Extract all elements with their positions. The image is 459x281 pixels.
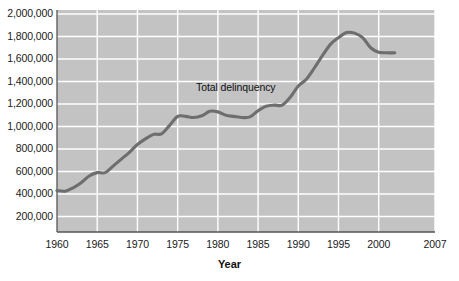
x-axis-tick-label: 2000 [355,238,403,250]
x-axis-title: Year [0,258,459,270]
chart-figure: 200,000400,000600,000800,0001,000,0001,2… [0,0,459,281]
x-axis-tick-label: 2007 [411,238,459,250]
series-annotation-label: Total delinquency [196,81,275,93]
y-axis-tick-label: 1,600,000 [0,52,53,64]
y-axis-tick-label: 1,000,000 [0,120,53,132]
y-axis-tick-label: 2,000,000 [0,7,53,19]
y-axis-tick-label: 1,200,000 [0,97,53,109]
y-axis-tick-label: 800,000 [0,142,53,154]
y-axis-tick-label: 1,400,000 [0,75,53,87]
y-axis-tick-label: 1,800,000 [0,30,53,42]
y-axis-tick-label: 200,000 [0,210,53,222]
y-axis-tick-label: 400,000 [0,187,53,199]
y-axis-tick-label: 600,000 [0,165,53,177]
